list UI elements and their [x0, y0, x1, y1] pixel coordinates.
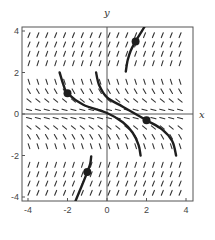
slope-segment [108, 61, 110, 66]
slope-segment [45, 89, 48, 94]
x-tick-label: -2 [63, 205, 71, 215]
slope-segment [161, 51, 163, 56]
slope-segment [81, 172, 83, 177]
slope-segment [72, 190, 74, 195]
slope-segment [179, 51, 181, 56]
slope-segment [98, 117, 103, 118]
slope-segment [73, 51, 75, 56]
slope-segment [99, 162, 101, 167]
slope-segment [28, 51, 30, 56]
slope-segment [108, 190, 110, 195]
slope-segment [89, 126, 93, 129]
slope-segment [28, 181, 30, 186]
slope-segment [162, 61, 164, 66]
slope-segment [117, 135, 120, 140]
slope-segment [72, 181, 74, 186]
slope-segment [46, 144, 48, 149]
slope-segment [135, 33, 137, 38]
slope-segment [90, 181, 92, 186]
slope-segment [134, 99, 138, 102]
slope-segment [54, 89, 57, 94]
slope-segment [82, 162, 84, 167]
slope-segment [151, 99, 155, 102]
slope-segment [152, 181, 154, 186]
slope-segment [126, 172, 128, 177]
slope-segment [37, 42, 39, 47]
initial-point-marker [64, 89, 72, 97]
slope-segment [55, 144, 57, 149]
slope-segment [126, 144, 128, 149]
slope-segment [126, 79, 128, 84]
slope-segment [116, 99, 120, 102]
slope-segment [170, 79, 172, 84]
slope-segment [134, 89, 137, 94]
slope-segment [135, 172, 137, 177]
slope-segment [90, 33, 92, 38]
slope-segment [28, 79, 30, 84]
slope-segment [46, 162, 48, 167]
slope-segment [27, 126, 31, 129]
slope-segment [73, 162, 75, 167]
slope-segment [28, 190, 30, 195]
slope-segment [90, 135, 93, 140]
slope-segment [117, 42, 119, 47]
slope-segment [99, 181, 101, 186]
slope-segment [117, 61, 119, 66]
slope-segment [117, 172, 119, 177]
slope-segment [179, 89, 182, 94]
slope-segment [107, 126, 111, 129]
slope-segment [160, 117, 165, 118]
slope-segment [161, 135, 164, 140]
slope-segment [46, 51, 48, 56]
slope-segment [28, 42, 30, 47]
slope-segment [179, 42, 181, 47]
slope-segment [115, 109, 120, 110]
slope-segment [81, 135, 84, 140]
slope-segment [135, 51, 137, 56]
slope-segment [117, 89, 120, 94]
slope-segment [152, 42, 154, 47]
slope-segment [126, 51, 128, 56]
slope-segment [37, 144, 39, 149]
slope-segment [90, 61, 92, 66]
slope-segment [169, 109, 174, 110]
x-axis-label: x [199, 109, 205, 120]
slope-segment [54, 135, 57, 140]
slope-segment [37, 135, 40, 140]
slope-segment [144, 61, 146, 66]
slope-segment [45, 126, 49, 129]
slope-segment [151, 126, 155, 129]
slope-segment [55, 42, 57, 47]
slope-segment [135, 61, 137, 66]
slope-segment [142, 109, 147, 110]
slope-segment [99, 172, 101, 177]
slope-segment [162, 144, 164, 149]
slope-segment [99, 33, 101, 38]
y-tick-label: -4 [11, 192, 19, 202]
slope-segment [72, 89, 75, 94]
slope-segment [170, 89, 173, 94]
initial-point-marker [83, 168, 91, 176]
slope-segment [108, 51, 110, 56]
slope-segment [46, 190, 48, 195]
slope-segment [73, 144, 75, 149]
slope-segment [80, 109, 85, 110]
slope-segment [153, 79, 155, 84]
y-tick-label: 0 [14, 109, 19, 119]
slope-segment [63, 135, 66, 140]
slope-segment [152, 89, 155, 94]
slope-segment [135, 144, 137, 149]
slope-segment [37, 162, 39, 167]
slope-segment [28, 172, 30, 177]
slope-segment [45, 135, 48, 140]
slope-segment [46, 172, 48, 177]
slope-segment [64, 61, 66, 66]
slope-segment [64, 181, 66, 186]
slope-segment [153, 51, 155, 56]
slope-segment [99, 61, 101, 66]
slope-segment [55, 162, 57, 167]
slope-segment [144, 33, 146, 38]
slope-segment [152, 190, 154, 195]
slope-segment [63, 99, 67, 102]
slope-segment [73, 61, 75, 66]
